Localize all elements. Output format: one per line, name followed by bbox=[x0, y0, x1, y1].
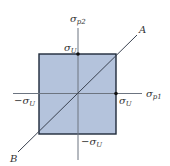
line-end-label-b: B bbox=[9, 153, 17, 164]
left-value-label: −σU bbox=[14, 95, 36, 108]
bottom-value-label: −σU bbox=[81, 136, 103, 149]
x-axis-label: σp1 bbox=[146, 88, 162, 101]
right-value-label: σU bbox=[119, 95, 133, 108]
failure-envelope-diagram: σp2 σp1 σU σU −σU −σU A B bbox=[0, 0, 170, 166]
line-end-label-a: A bbox=[138, 24, 146, 35]
y-axis-label: σp2 bbox=[70, 13, 86, 26]
top-value-label: σU bbox=[64, 42, 78, 55]
top-intercept-point bbox=[76, 52, 80, 56]
right-intercept-point bbox=[114, 92, 118, 96]
